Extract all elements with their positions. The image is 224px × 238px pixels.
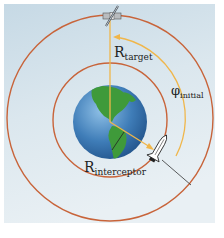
orbit-diagram: Rtarget φinitial Rinterceptor bbox=[0, 0, 224, 238]
